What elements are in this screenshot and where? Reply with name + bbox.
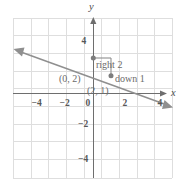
y-tick-minus-2: −2 bbox=[78, 120, 88, 130]
annotation-down-1: down 1 bbox=[115, 74, 145, 84]
coordinate-graph: −4 −2 0 2 4 4 −2 −4 x y right 2 down 1 (… bbox=[0, 0, 182, 191]
y-axis-label: y bbox=[89, 2, 94, 13]
y-tick-4: 4 bbox=[82, 37, 87, 47]
annotation-right-2: right 2 bbox=[96, 60, 122, 70]
line-arrow-right bbox=[162, 100, 173, 109]
x-axis-label: x bbox=[171, 88, 176, 99]
x-tick-minus-4: −4 bbox=[32, 99, 42, 109]
x-tick-0: 0 bbox=[86, 99, 91, 109]
point-label-2-1: (2, 1) bbox=[87, 86, 109, 96]
point-label-0-2: (0, 2) bbox=[59, 74, 81, 84]
x-axis-arrow bbox=[160, 90, 167, 96]
x-tick-minus-2: −2 bbox=[60, 99, 70, 109]
line-arrow-left bbox=[14, 48, 25, 57]
y-tick-minus-4: −4 bbox=[78, 155, 88, 165]
x-tick-2: 2 bbox=[123, 99, 128, 109]
point-2-1 bbox=[109, 73, 114, 78]
x-tick-4: 4 bbox=[158, 99, 163, 109]
